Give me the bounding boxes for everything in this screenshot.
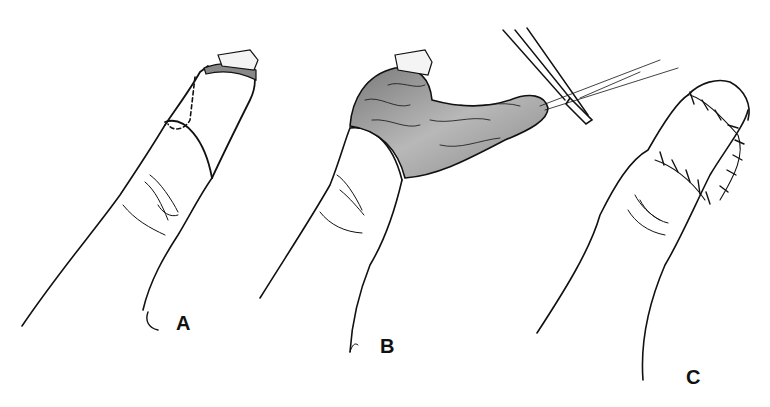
panel-label-c: C	[686, 366, 700, 389]
figure-canvas: A B C	[0, 0, 770, 407]
panel-a-finger	[22, 50, 258, 330]
panel-label-a: A	[176, 312, 190, 335]
panel-label-b: B	[380, 335, 394, 358]
panel-c-finger	[537, 81, 749, 380]
panel-b-finger	[260, 50, 548, 352]
